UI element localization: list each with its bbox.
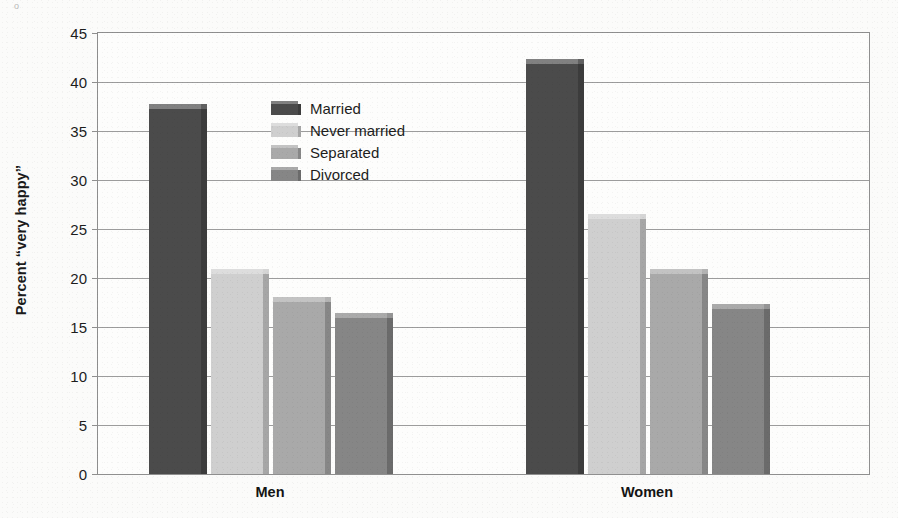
bar-front-face xyxy=(588,219,640,474)
bar-women-divorced xyxy=(712,304,770,474)
legend-label: Separated xyxy=(310,145,379,160)
bar-front-face xyxy=(149,109,201,474)
y-tick-label: 40 xyxy=(41,74,98,91)
bar-men-never-married xyxy=(211,269,269,474)
legend-swatch-front xyxy=(271,148,298,159)
bar-side-face xyxy=(325,302,331,474)
bar-front-face xyxy=(335,318,387,474)
gridline xyxy=(98,180,869,181)
y-axis-title-text: Percent “very happy” xyxy=(13,165,29,315)
bar-side-face xyxy=(578,64,584,474)
y-tick-label: 20 xyxy=(41,270,98,287)
plot-area: 051015202530354045 xyxy=(97,32,870,475)
y-tick-label: 15 xyxy=(41,319,98,336)
legend-swatch-icon xyxy=(271,167,301,181)
legend-item-divorced: Divorced xyxy=(271,163,405,185)
legend-label: Divorced xyxy=(310,167,369,182)
y-tick-label: 35 xyxy=(41,123,98,140)
bar-side-face xyxy=(387,318,393,474)
y-tick-label: 25 xyxy=(41,221,98,238)
legend-swatch-front xyxy=(271,170,298,181)
bar-men-separated xyxy=(273,297,331,474)
bar-women-separated xyxy=(650,269,708,474)
bar-side-face xyxy=(764,309,770,474)
legend-swatch-front xyxy=(271,126,298,137)
legend-swatch-icon xyxy=(271,101,301,115)
legend-swatch-icon xyxy=(271,123,301,137)
scan-artifact-mark: o xyxy=(14,1,19,11)
y-tick-label: 30 xyxy=(41,172,98,189)
bar-side-face xyxy=(263,274,269,474)
legend-item-married: Married xyxy=(271,97,405,119)
gridline xyxy=(98,229,869,230)
chart-figure: o Percent “very happy” 05101520253035404… xyxy=(0,0,898,518)
y-tick-label: 0 xyxy=(41,466,98,483)
legend-swatch-side xyxy=(298,148,301,159)
legend-swatch-side xyxy=(298,126,301,137)
bar-front-face xyxy=(650,274,702,474)
legend-swatch-side xyxy=(298,104,301,115)
legend-item-never-married: Never married xyxy=(271,119,405,141)
legend-swatch-icon xyxy=(271,145,301,159)
y-tick-label: 45 xyxy=(41,25,98,42)
legend-label: Never married xyxy=(310,123,405,138)
bar-front-face xyxy=(273,302,325,474)
bar-front-face xyxy=(211,274,263,474)
legend-swatch-front xyxy=(271,104,298,115)
y-tick-label: 10 xyxy=(41,368,98,385)
bar-side-face xyxy=(201,109,207,474)
legend-label: Married xyxy=(310,101,361,116)
bar-men-married xyxy=(149,104,207,474)
bar-women-married xyxy=(526,59,584,474)
legend-item-separated: Separated xyxy=(271,141,405,163)
gridline xyxy=(98,131,869,132)
x-group-label-men: Men xyxy=(256,484,285,500)
bar-side-face xyxy=(702,274,708,474)
y-axis-title: Percent “very happy” xyxy=(6,0,36,480)
gridline xyxy=(98,82,869,83)
y-tick-label: 5 xyxy=(41,417,98,434)
bar-front-face xyxy=(526,64,578,474)
chart-legend: MarriedNever marriedSeparatedDivorced xyxy=(271,97,405,185)
bar-side-face xyxy=(640,219,646,474)
bar-front-face xyxy=(712,309,764,474)
bar-women-never-married xyxy=(588,214,646,474)
bar-men-divorced xyxy=(335,313,393,474)
legend-swatch-side xyxy=(298,170,301,181)
x-group-label-women: Women xyxy=(621,484,673,500)
